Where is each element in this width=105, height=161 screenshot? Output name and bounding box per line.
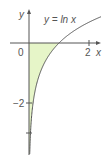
origin-label: 0: [18, 47, 24, 58]
y-axis-arrow-icon: [27, 9, 31, 14]
y-tick-label-minus2: −2: [13, 98, 25, 109]
x-axis-arrow-icon: [96, 41, 101, 45]
ln-curve: [30, 17, 101, 154]
x-axis-label: x: [95, 47, 102, 58]
function-label: y = ln x: [43, 14, 77, 25]
ln-graph: y y = ln x 0 2 x −2: [0, 0, 105, 161]
y-axis-label: y: [18, 9, 25, 20]
x-tick-label-2: 2: [85, 47, 91, 58]
